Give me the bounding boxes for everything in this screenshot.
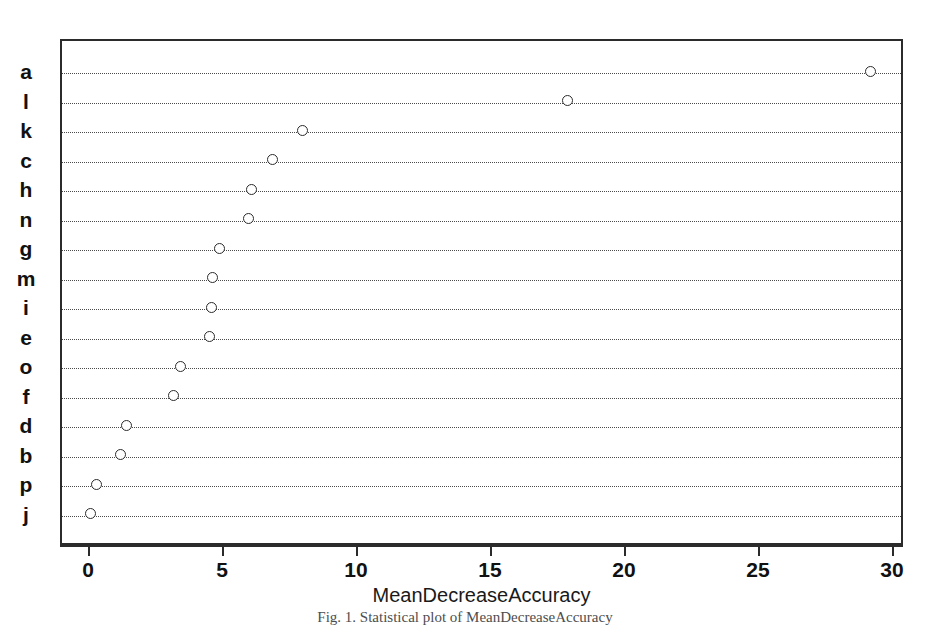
y-axis-label-p: p bbox=[0, 474, 52, 495]
x-tick-label-5: 5 bbox=[192, 558, 252, 582]
y-axis-label-b: b bbox=[0, 444, 52, 465]
y-axis-label-n: n bbox=[0, 208, 52, 229]
data-point-h bbox=[246, 184, 257, 195]
x-tick-5 bbox=[222, 545, 224, 556]
x-tick-label-10: 10 bbox=[326, 558, 386, 582]
y-axis-label-i: i bbox=[0, 297, 52, 318]
y-axis-label-c: c bbox=[0, 149, 52, 170]
gridline-g bbox=[62, 250, 901, 251]
gridline-p bbox=[62, 486, 901, 487]
x-tick-label-30: 30 bbox=[862, 558, 922, 582]
x-tick-20 bbox=[624, 545, 626, 556]
gridline-a bbox=[62, 73, 901, 74]
gridline-i bbox=[62, 309, 901, 310]
gridline-n bbox=[62, 221, 901, 222]
data-point-b bbox=[115, 449, 126, 460]
y-axis-label-a: a bbox=[0, 61, 52, 82]
x-tick-label-0: 0 bbox=[58, 558, 118, 582]
gridline-h bbox=[62, 191, 901, 192]
data-point-o bbox=[175, 361, 186, 372]
gridline-j bbox=[62, 516, 901, 517]
gridline-d bbox=[62, 427, 901, 428]
y-axis-label-m: m bbox=[0, 267, 52, 288]
gridline-f bbox=[62, 398, 901, 399]
x-tick-10 bbox=[356, 545, 358, 556]
gridline-c bbox=[62, 162, 901, 163]
data-point-d bbox=[121, 420, 132, 431]
x-tick-0 bbox=[88, 545, 90, 556]
y-axis-label-e: e bbox=[0, 326, 52, 347]
y-axis-label-d: d bbox=[0, 415, 52, 436]
gridline-m bbox=[62, 280, 901, 281]
x-axis-title: MeanDecreaseAccuracy bbox=[60, 584, 903, 607]
x-axis-line bbox=[60, 545, 903, 547]
variable-importance-dotplot: alkchngmieofdbpj 051015202530 MeanDecrea… bbox=[0, 0, 930, 627]
y-axis-label-g: g bbox=[0, 238, 52, 259]
data-point-g bbox=[214, 243, 225, 254]
gridline-e bbox=[62, 339, 901, 340]
x-tick-30 bbox=[892, 545, 894, 556]
gridline-l bbox=[62, 103, 901, 104]
data-point-i bbox=[206, 302, 217, 313]
y-axis-label-f: f bbox=[0, 385, 52, 406]
y-axis-label-k: k bbox=[0, 120, 52, 141]
y-axis-label-j: j bbox=[0, 503, 52, 524]
data-point-p bbox=[91, 479, 102, 490]
gridline-b bbox=[62, 457, 901, 458]
data-point-k bbox=[297, 125, 308, 136]
x-tick-label-15: 15 bbox=[460, 558, 520, 582]
x-tick-label-20: 20 bbox=[594, 558, 654, 582]
y-axis-label-o: o bbox=[0, 356, 52, 377]
y-axis-label-h: h bbox=[0, 179, 52, 200]
gridline-k bbox=[62, 132, 901, 133]
data-point-a bbox=[865, 66, 876, 77]
x-tick-25 bbox=[758, 545, 760, 556]
y-axis-label-l: l bbox=[0, 90, 52, 111]
gridline-o bbox=[62, 368, 901, 369]
figure-caption: Fig. 1. Statistical plot of MeanDecrease… bbox=[0, 609, 930, 626]
x-tick-label-25: 25 bbox=[728, 558, 788, 582]
x-tick-15 bbox=[490, 545, 492, 556]
plot-area bbox=[60, 39, 903, 545]
